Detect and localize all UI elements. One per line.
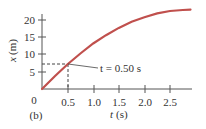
x-tick-label: 0.5: [61, 96, 75, 108]
annotation-leader: [68, 64, 98, 68]
y-axis-var: x: [6, 57, 18, 63]
y-tick-label: 5: [30, 66, 36, 78]
y-tick-label: 10: [24, 48, 36, 60]
x-tick-label: 2.5: [163, 96, 177, 108]
x-tick-label: 1.0: [87, 96, 101, 108]
y-axis-label: x (m): [6, 39, 19, 63]
position-time-chart: 20 15 10 5 0.5 1.0 1.5 2.0 2.5 0 (b) t (…: [0, 0, 206, 129]
annotation-label: t = 0.50 s: [100, 62, 141, 74]
x-axis-var: t: [110, 108, 114, 120]
x-axis-label: t (s): [110, 108, 128, 121]
x-axis-unit: (s): [116, 108, 128, 121]
y-ticks: 20 15 10 5: [24, 14, 46, 78]
x-ticks: 0.5 1.0 1.5 2.0 2.5: [61, 85, 177, 108]
position-curve: [42, 10, 191, 89]
panel-label: (b): [30, 109, 43, 122]
y-tick-label: 15: [24, 31, 36, 43]
y-axis-unit: (m): [6, 39, 19, 55]
x-tick-label: 1.5: [112, 96, 126, 108]
x-tick-label: 2.0: [138, 96, 152, 108]
y-tick-label: 20: [24, 14, 36, 26]
origin-label: 0: [31, 94, 37, 106]
